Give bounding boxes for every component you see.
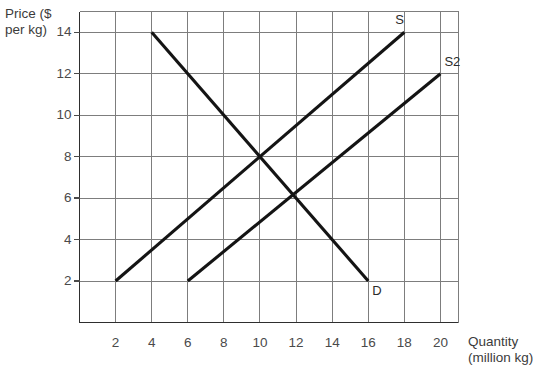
horizontal-gridlines bbox=[80, 32, 459, 281]
x-tick-label-6: 6 bbox=[175, 335, 201, 350]
x-tick-label-18: 18 bbox=[391, 335, 417, 350]
y-tick-label-8: 8 bbox=[46, 149, 72, 164]
plot-area bbox=[0, 0, 543, 380]
y-tick-label-2: 2 bbox=[46, 273, 72, 288]
y-tick-label-12: 12 bbox=[46, 66, 72, 81]
supply-demand-chart: Price ($per kg) Quantity(million kg) 246… bbox=[0, 0, 543, 380]
x-tick-label-8: 8 bbox=[211, 335, 237, 350]
curve-label-s2: S2 bbox=[444, 54, 460, 69]
x-tick-label-4: 4 bbox=[139, 335, 165, 350]
y-tick-label-14: 14 bbox=[46, 24, 72, 39]
axis-tickmarks bbox=[74, 32, 80, 281]
y-tick-label-6: 6 bbox=[46, 190, 72, 205]
curve-label-d: D bbox=[372, 283, 381, 298]
x-tick-label-20: 20 bbox=[427, 335, 453, 350]
x-tick-label-2: 2 bbox=[103, 335, 129, 350]
x-tick-label-12: 12 bbox=[283, 335, 309, 350]
x-tick-label-10: 10 bbox=[247, 335, 273, 350]
curve-label-s: S bbox=[395, 12, 404, 27]
x-tick-label-14: 14 bbox=[319, 335, 345, 350]
curve-s2 bbox=[188, 74, 441, 281]
vertical-gridlines bbox=[116, 12, 441, 323]
y-tick-label-4: 4 bbox=[46, 232, 72, 247]
y-tick-label-10: 10 bbox=[46, 107, 72, 122]
x-tick-label-16: 16 bbox=[355, 335, 381, 350]
